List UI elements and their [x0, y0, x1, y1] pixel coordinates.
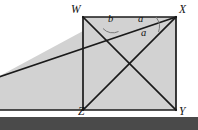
angle-label-a-lower: a [141, 28, 146, 39]
vertex-label-X: X [179, 4, 186, 16]
bottom-bar [0, 117, 198, 130]
angle-label-b: b [108, 14, 113, 25]
geometry-figure: W X Y Z a a b [0, 0, 198, 130]
shaded-regions [0, 17, 176, 110]
vertex-label-Z: Z [78, 106, 84, 118]
geometry-diagram [0, 0, 198, 130]
vertex-label-W: W [71, 4, 81, 16]
shaded-triangle-left [0, 31, 83, 110]
vertex-label-Y: Y [179, 106, 185, 118]
angle-label-a-upper: a [138, 14, 143, 25]
